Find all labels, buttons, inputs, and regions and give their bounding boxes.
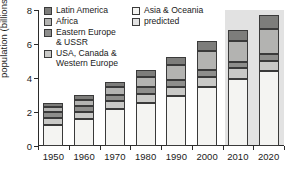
legend-entry-africa: Africa [44, 17, 118, 27]
y-tick-mark-6 [34, 44, 38, 45]
legend-label-asia-oceania: Asia & Oceania [144, 6, 203, 16]
legend-label-usa-canada-western-europe: USA, Canada & Western Europe [56, 49, 118, 68]
bar-1980 [136, 70, 156, 147]
bar-segment-1970-latin-america [105, 82, 125, 87]
x-tick-mark-8 [284, 146, 285, 150]
legend-swatch-eastern-europe-ussr [44, 29, 52, 37]
legend-swatch-usa-canada-western-europe [44, 50, 52, 58]
x-tick-mark-2 [100, 146, 101, 150]
bar-segment-2010-asia-oceania [228, 79, 248, 146]
x-tick-mark-3 [130, 146, 131, 150]
bar-segment-1990-asia-oceania [166, 96, 186, 146]
bar-segment-1950-africa [43, 107, 63, 112]
legend-entry-asia-oceania: Asia & Oceania [132, 6, 203, 16]
x-tick-mark-1 [69, 146, 70, 150]
legend-swatch-latin-america [44, 7, 52, 15]
legend-swatch-predicted [132, 18, 140, 26]
x-tick-label-1980: 1980 [135, 152, 156, 162]
bar-segment-1970-eastern-europe-ussr [105, 95, 125, 101]
bar-segment-1960-eastern-europe-ussr [74, 106, 94, 112]
y-tick-label-0: 0 [27, 142, 32, 151]
legend-label-eastern-europe-ussr: Eastern Europe & USSR [56, 28, 116, 47]
bar-2020 [259, 15, 279, 146]
x-tick-label-2020: 2020 [258, 152, 279, 162]
bar-segment-2010-africa [228, 41, 248, 61]
legend-swatch-asia-oceania [132, 7, 140, 15]
bar-segment-2020-eastern-europe-ussr [259, 54, 279, 61]
y-tick-mark-4 [34, 78, 38, 79]
legend-entry-predicted: predicted [132, 17, 203, 27]
bar-segment-1950-latin-america [43, 103, 63, 108]
bar-segment-1980-asia-oceania [136, 103, 156, 146]
bar-segment-1950-eastern-europe-ussr [43, 112, 63, 117]
bar-segment-1980-latin-america [136, 70, 156, 77]
y-tick-label-6: 6 [27, 40, 32, 49]
x-tick-label-1990: 1990 [166, 152, 187, 162]
bar-segment-1980-africa [136, 77, 156, 88]
bar-segment-2020-latin-america [259, 15, 279, 29]
legend-column-2: Asia & Oceaniapredicted [132, 6, 203, 68]
chart-legend: Latin AmericaAfricaEastern Europe & USSR… [44, 6, 203, 68]
bar-1960 [74, 95, 94, 146]
bar-segment-1950-asia-oceania [43, 125, 63, 146]
bar-segment-2020-africa [259, 29, 279, 54]
bar-segment-2010-latin-america [228, 30, 248, 41]
bar-1990 [166, 57, 186, 146]
x-tick-label-2000: 2000 [197, 152, 218, 162]
x-tick-label-1950: 1950 [43, 152, 64, 162]
x-tick-mark-0 [38, 146, 39, 150]
bar-segment-1960-latin-america [74, 95, 94, 100]
bar-segment-1960-africa [74, 100, 94, 106]
population-stacked-bar-chart: 02468 19501960197019801990200020102020 p… [0, 0, 290, 171]
legend-entry-latin-america: Latin America [44, 6, 118, 16]
y-tick-label-8: 8 [27, 6, 32, 15]
legend-column-1: Latin AmericaAfricaEastern Europe & USSR… [44, 6, 118, 68]
bar-segment-2020-usa-canada-western-europe [259, 61, 279, 72]
legend-label-latin-america: Latin America [56, 6, 108, 16]
x-tick-label-1960: 1960 [74, 152, 95, 162]
x-tick-mark-5 [192, 146, 193, 150]
bar-segment-1960-usa-canada-western-europe [74, 112, 94, 120]
bar-segment-2000-eastern-europe-ussr [197, 70, 217, 77]
y-axis-title: population (billions) [0, 0, 9, 78]
bar-2010 [228, 30, 248, 146]
bar-segment-1960-asia-oceania [74, 119, 94, 146]
bar-segment-1980-eastern-europe-ussr [136, 87, 156, 93]
x-tick-label-2010: 2010 [227, 152, 248, 162]
legend-label-africa: Africa [56, 17, 78, 27]
bar-segment-2000-asia-oceania [197, 87, 217, 146]
bar-segment-1990-eastern-europe-ussr [166, 80, 186, 87]
bar-segment-2020-asia-oceania [259, 71, 279, 146]
bar-segment-1970-asia-oceania [105, 109, 125, 146]
y-tick-mark-8 [34, 10, 38, 11]
legend-entry-eastern-europe-ussr: Eastern Europe & USSR [44, 28, 118, 47]
y-axis-line [38, 10, 39, 146]
x-tick-mark-7 [253, 146, 254, 150]
x-tick-mark-6 [223, 146, 224, 150]
y-tick-mark-2 [34, 112, 38, 113]
legend-entry-usa-canada-western-europe: USA, Canada & Western Europe [44, 49, 118, 68]
bar-segment-1980-usa-canada-western-europe [136, 94, 156, 103]
bar-segment-1970-usa-canada-western-europe [105, 101, 125, 110]
bar-segment-2010-eastern-europe-ussr [228, 62, 248, 69]
y-tick-label-4: 4 [27, 74, 32, 83]
x-tick-mark-4 [161, 146, 162, 150]
bar-1950 [43, 103, 63, 146]
bar-segment-1950-usa-canada-western-europe [43, 118, 63, 125]
legend-swatch-africa [44, 18, 52, 26]
bar-segment-2010-usa-canada-western-europe [228, 68, 248, 79]
y-tick-label-2: 2 [27, 108, 32, 117]
legend-label-predicted: predicted [144, 17, 179, 27]
bar-segment-1970-africa [105, 87, 125, 94]
bar-1970 [105, 82, 125, 146]
bar-segment-2000-usa-canada-western-europe [197, 77, 217, 87]
bar-segment-1990-usa-canada-western-europe [166, 87, 186, 97]
x-tick-label-1970: 1970 [104, 152, 125, 162]
